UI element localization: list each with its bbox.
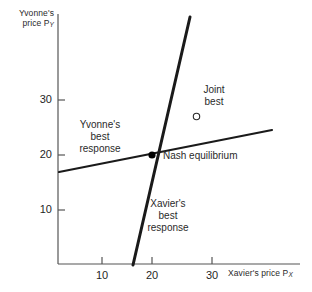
x-axis-label: Xavier's price PX bbox=[228, 268, 293, 279]
nash-equilibrium-point bbox=[148, 151, 155, 158]
y-axis-label: Yvonne'sprice PY bbox=[2, 8, 54, 29]
nash-equilibrium-label: Nash equilibrium bbox=[163, 150, 237, 162]
y-axis-label-subscript: Y bbox=[50, 21, 54, 28]
xavier-label-line2: best bbox=[159, 210, 178, 221]
y-axis-label-line2: price P bbox=[22, 18, 49, 28]
joint-best-label-line1: Joint bbox=[203, 84, 224, 95]
yvonne-label-line1: Yvonne's bbox=[80, 119, 120, 130]
joint-best-label: Jointbest bbox=[188, 84, 240, 108]
plot-area bbox=[0, 0, 312, 292]
y-tick-label-30: 30 bbox=[26, 93, 52, 106]
x-axis-label-subscript: X bbox=[288, 271, 292, 278]
xavier-label-line1: Xavier's bbox=[150, 198, 185, 209]
y-tick-label-10: 10 bbox=[26, 203, 52, 216]
x-tick-label-20: 20 bbox=[137, 269, 167, 282]
joint-best-label-line2: best bbox=[205, 96, 224, 107]
y-tick-label-20: 20 bbox=[26, 148, 52, 161]
yvonne-label-line2: best bbox=[91, 131, 110, 142]
xavier-best-response-label: Xavier'sbestresponse bbox=[130, 198, 206, 233]
x-tick-label-10: 10 bbox=[87, 269, 117, 282]
x-tick-label-30: 30 bbox=[197, 269, 227, 282]
yvonne-best-response-label: Yvonne'sbestresponse bbox=[56, 119, 144, 154]
y-axis-label-line1: Yvonne's bbox=[19, 8, 54, 18]
yvonne-label-line3: response bbox=[79, 143, 120, 154]
best-response-diagram: Yvonne'sprice PY Xavier's price PX 30 20… bbox=[0, 0, 312, 292]
joint-best-point bbox=[193, 113, 199, 119]
xavier-label-line3: response bbox=[147, 222, 188, 233]
x-axis-label-text: Xavier's price P bbox=[228, 268, 288, 278]
